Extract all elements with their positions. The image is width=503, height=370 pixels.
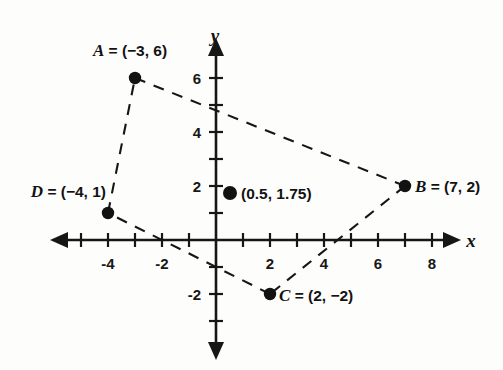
point-label-C: C = (2, −2) [279,286,353,305]
x-tick-label: 6 [374,255,382,272]
point-A[interactable] [129,72,141,84]
y-tick-label: 6 [193,70,201,87]
point-B[interactable] [399,180,411,192]
point-label-C-name: C [279,286,291,305]
edge-C-D [108,213,270,294]
x-tick-labels-group: -4 -2 2 4 6 8 [101,255,436,272]
x-tick-label: 2 [266,255,274,272]
x-tick-label: 4 [320,255,329,272]
coordinate-plane-diagram: x y -4 -2 2 4 6 8 -2 2 4 6 [0,0,503,370]
point-D[interactable] [102,207,114,219]
x-tick-label: -2 [155,255,168,272]
point-label-centroid: (0.5, 1.75) [241,185,312,202]
edge-D-A [108,78,135,213]
x-tick-label: -4 [101,255,115,272]
point-labels-group: A = (−3, 6) B = (7, 2) C = (2, −2) D = (… [30,41,480,305]
edge-A-B [135,78,405,186]
point-label-A-name: A [92,41,104,60]
y-tick-label: -2 [188,286,201,303]
x-axis-arrow-left [50,232,68,248]
y-axis-label: y [209,25,220,46]
point-label-D: D = (−4, 1) [30,182,106,201]
x-axis-arrow-right [443,232,461,248]
point-label-B: B = (7, 2) [414,177,480,196]
point-label-D-value: = (−4, 1) [43,183,106,200]
point-label-C-value: = (2, −2) [290,287,353,304]
point-C[interactable] [264,288,276,300]
point-label-A-value: = (−3, 6) [104,42,167,59]
y-axis-arrow-down [208,342,224,360]
point-label-centroid-value: (0.5, 1.75) [241,185,312,202]
x-axis-label: x [465,230,476,251]
point-label-B-value: = (7, 2) [426,178,480,195]
y-tick-label: 4 [193,124,202,141]
x-tick-label: 8 [428,255,436,272]
point-centroid[interactable] [223,186,237,200]
point-label-D-name: D [30,182,43,201]
point-label-B-name: B [414,177,426,196]
y-tick-label: 2 [193,178,201,195]
figure-canvas: x y -4 -2 2 4 6 8 -2 2 4 6 [0,0,503,370]
point-label-A: A = (−3, 6) [92,41,167,60]
